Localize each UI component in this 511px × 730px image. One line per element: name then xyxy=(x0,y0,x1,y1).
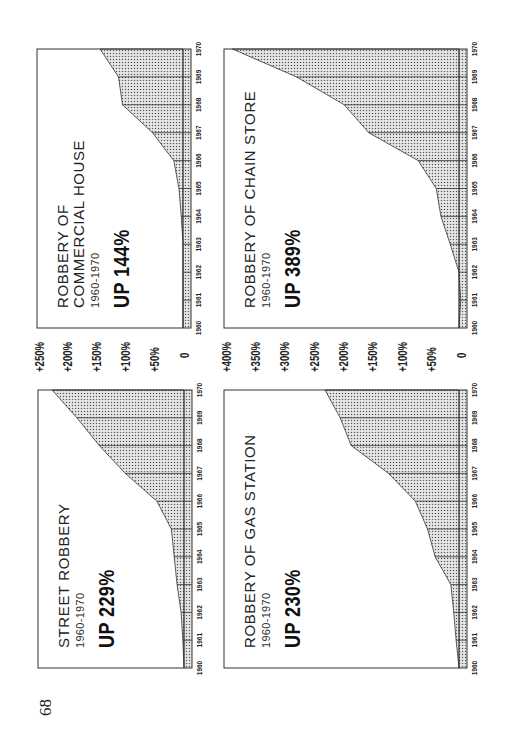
year-tick-label: 1968 xyxy=(471,438,478,453)
year-tick-label: 1965 xyxy=(195,181,202,196)
year-tick-label: 1966 xyxy=(196,494,203,509)
chart-street-robbery: 1960196119621963196419651966196719681969… xyxy=(38,390,192,668)
year-tick-label: 1964 xyxy=(195,209,202,224)
axis-tick: +250% xyxy=(308,342,322,372)
year-tick-label: 1967 xyxy=(471,466,478,481)
axis-tick: 0 xyxy=(455,353,469,358)
year-tick-label: 1970 xyxy=(196,382,203,397)
year-tick-label: 1962 xyxy=(196,605,203,620)
chart-title: STREET ROBBERY xyxy=(56,503,72,648)
year-tick-label: 1961 xyxy=(195,292,202,307)
axis-tick: +150% xyxy=(90,342,104,372)
year-tick-label: 1961 xyxy=(196,633,203,648)
year-tick-label: 1969 xyxy=(195,69,202,84)
year-tick-label: 1962 xyxy=(471,605,478,620)
axis-tick: +50% xyxy=(148,347,162,372)
year-tick-label: 1965 xyxy=(196,521,203,536)
axis-tick: +150% xyxy=(366,342,380,372)
year-tick-label: 1969 xyxy=(471,69,478,84)
year-tick-label: 1967 xyxy=(195,125,202,140)
axis-tick: +100% xyxy=(119,342,133,372)
axis-tick: +200% xyxy=(337,342,351,372)
chart-change-label: UP 229% xyxy=(96,529,118,648)
year-tick-label: 1961 xyxy=(471,292,478,307)
year-tick-label: 1968 xyxy=(471,97,478,112)
axis-tick: +300% xyxy=(278,342,292,372)
year-tick-label: 1966 xyxy=(195,153,202,168)
year-tick-label: 1965 xyxy=(471,181,478,196)
year-tick-label: 1967 xyxy=(471,125,478,140)
chart-caption: ROBBERY OF COMMERCIAL HOUSE 1960-1970 UP… xyxy=(55,140,133,308)
year-tick-label: 1968 xyxy=(195,97,202,112)
year-tick-label: 1970 xyxy=(195,41,202,56)
chart-caption: STREET ROBBERY 1960-1970 UP 229% xyxy=(56,503,118,648)
chart-gas-station-robbery: 1960196119621963196419651966196719681969… xyxy=(224,390,467,668)
year-tick-label: 1964 xyxy=(196,549,203,564)
chart-date-range: 1960-1970 xyxy=(261,434,272,648)
year-tick-label: 1970 xyxy=(471,41,478,56)
year-tick-label: 1970 xyxy=(471,382,478,397)
year-tick-label: 1961 xyxy=(471,633,478,648)
axis-tick: 0 xyxy=(178,353,192,358)
chart-commercial-house-robbery: 1960196119621963196419651966196719681969… xyxy=(37,49,191,328)
book-page: 68 1960196119621963196419651966196719681… xyxy=(0,0,511,730)
year-tick-label: 1963 xyxy=(471,237,478,252)
axis-tick: +100% xyxy=(396,342,410,372)
chart-chain-store-robbery: 1960196119621963196419651966196719681969… xyxy=(224,49,467,328)
year-tick-label: 1965 xyxy=(471,521,478,536)
axis-tick: +200% xyxy=(61,342,75,372)
year-tick-label: 1966 xyxy=(471,153,478,168)
axis-tick: +250% xyxy=(33,342,47,372)
year-tick-label: 1963 xyxy=(471,577,478,592)
year-tick-label: 1960 xyxy=(471,660,478,675)
y-axis-right-scale: +400% +350% +300% +250% +200% +150% +100… xyxy=(200,332,490,372)
axis-tick: +350% xyxy=(249,342,263,372)
chart-date-range: 1960-1970 xyxy=(261,91,272,308)
page-number: 68 xyxy=(36,699,56,716)
chart-change-label: UP 144% xyxy=(111,170,133,308)
year-tick-label: 1962 xyxy=(471,265,478,280)
year-tick-label: 1963 xyxy=(196,577,203,592)
axis-tick: +400% xyxy=(220,342,234,372)
year-tick-label: 1969 xyxy=(196,410,203,425)
chart-date-range: 1960-1970 xyxy=(90,140,101,308)
year-tick-label: 1963 xyxy=(195,237,202,252)
chart-title: ROBBERY OF GAS STATION xyxy=(242,434,258,648)
chart-caption: ROBBERY OF GAS STATION 1960-1970 UP 230% xyxy=(242,434,304,648)
chart-change-label: UP 389% xyxy=(282,130,304,308)
chart-title: ROBBERY OF COMMERCIAL HOUSE xyxy=(55,140,87,308)
y-axis-left-scale: +250% +200% +150% +100% +50% 0 xyxy=(0,332,200,372)
year-tick-label: 1960 xyxy=(196,660,203,675)
chart-change-label: UP 230% xyxy=(282,473,304,648)
year-tick-label: 1968 xyxy=(196,438,203,453)
chart-date-range: 1960-1970 xyxy=(75,503,86,648)
axis-tick: +50% xyxy=(425,347,439,372)
year-tick-label: 1966 xyxy=(471,494,478,509)
year-tick-label: 1967 xyxy=(196,466,203,481)
chart-caption: ROBBERY OF CHAIN STORE 1960-1970 UP 389% xyxy=(242,91,304,308)
year-tick-label: 1964 xyxy=(471,549,478,564)
year-tick-label: 1969 xyxy=(471,410,478,425)
year-tick-label: 1964 xyxy=(471,209,478,224)
chart-title: ROBBERY OF CHAIN STORE xyxy=(242,91,258,308)
year-tick-label: 1962 xyxy=(195,265,202,280)
